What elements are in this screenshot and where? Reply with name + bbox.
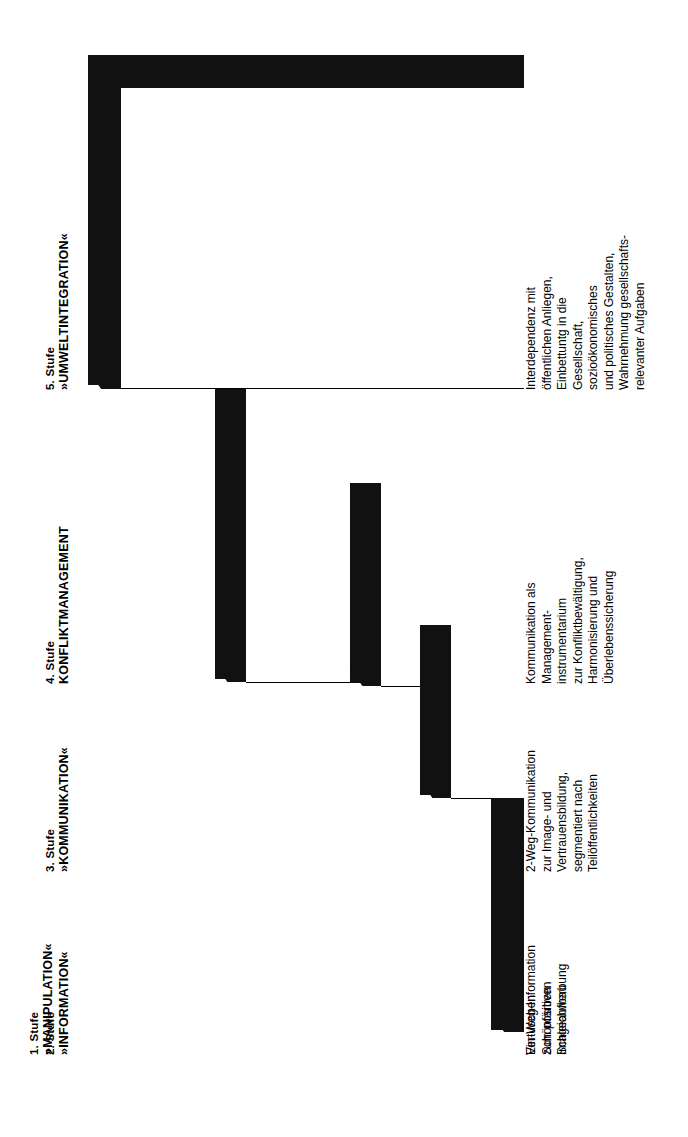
step-5-body-line: und politisches Gestalten,	[602, 60, 618, 390]
step-5-body-line: öffentlichen Anliegen,	[540, 60, 556, 390]
step-5-face	[121, 88, 524, 389]
step-5-body-line: Wahrnehmung gesellschafts-	[617, 60, 633, 390]
step-5-label: 5. Stufe »UMWELTINTEGRATION«	[44, 233, 71, 390]
step-3-name: »KOMMUNIKATION«	[57, 747, 71, 872]
step-1-name: »MANIPULATION«	[41, 943, 55, 1055]
staircase-diagram: 5. Stufe »UMWELTINTEGRATION« Interdepend…	[0, 0, 688, 1137]
step-5-number: 5. Stufe	[44, 233, 57, 390]
step-3-body-line: segmentiert nach	[571, 622, 587, 872]
step-3-number: 3. Stufe	[44, 747, 57, 872]
step-4-body-line: Überlebenssicherung	[602, 394, 618, 684]
step-1-body-line: Vertuschen	[524, 855, 540, 1055]
step-5-body-line: sozioökonomisches	[586, 60, 602, 390]
step-2-riser	[420, 625, 451, 795]
step-1-body: Vertuschen Schönfärben Schleichwerbung	[524, 855, 571, 1055]
step-3-body-line: Teilöffentlichkeiten	[586, 622, 602, 872]
step-1-number: 1. Stufe	[28, 943, 41, 1055]
step-1-riser	[491, 798, 524, 1030]
step-4-riser	[215, 389, 246, 679]
step-5-body-line: Einbettuntg in die	[555, 60, 571, 390]
step-5-name: »UMWELTINTEGRATION«	[57, 233, 71, 390]
step-4-label: 4. Stufe KONFLIKTMANAGEMENT	[44, 526, 71, 684]
step-5-riser	[88, 55, 121, 385]
step-5-body: Interdependenz mit öffentlichen Anliegen…	[524, 60, 648, 390]
step-4-number: 4. Stufe	[44, 526, 57, 684]
step-1-label: 1. Stufe »MANIPULATION«	[28, 943, 55, 1055]
step-3-riser	[350, 483, 381, 683]
step-2-name: »INFORMATION«	[57, 951, 71, 1055]
step-5-body-line: Gesellschaft,	[571, 60, 587, 390]
step-5-body-line: Interdependenz mit	[524, 60, 540, 390]
step-5-tread-cap	[88, 55, 524, 88]
step-1-body-line: Schleichwerbung	[555, 855, 571, 1055]
step-5-body-line: relevanter Aufgaben	[633, 60, 649, 390]
step-4-name: KONFLIKTMANAGEMENT	[57, 526, 71, 684]
step-3-label: 3. Stufe »KOMMUNIKATION«	[44, 747, 71, 872]
step-2-face	[451, 625, 524, 799]
step-1-body-line: Schönfärben	[540, 855, 556, 1055]
